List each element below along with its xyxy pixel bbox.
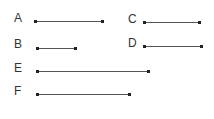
endpoint-icon: [36, 93, 39, 96]
endpoint-icon: [101, 20, 104, 23]
line-segment-a: [35, 21, 103, 22]
endpoint-icon: [147, 70, 150, 73]
endpoint-icon: [36, 47, 39, 50]
segment-label-a: A: [14, 12, 22, 24]
endpoint-icon: [36, 70, 39, 73]
line-segment-b: [37, 48, 76, 49]
line-segment-c: [144, 22, 200, 23]
endpoint-icon: [198, 21, 201, 24]
segment-label-f: F: [14, 85, 21, 97]
endpoint-icon: [34, 20, 37, 23]
endpoint-icon: [143, 21, 146, 24]
segment-label-d: D: [128, 37, 137, 49]
segment-label-c: C: [128, 13, 137, 25]
endpoint-icon: [128, 93, 131, 96]
endpoint-icon: [74, 47, 77, 50]
segment-label-b: B: [14, 38, 22, 50]
segment-label-e: E: [14, 62, 22, 74]
line-segment-e: [37, 71, 149, 72]
endpoint-icon: [200, 45, 203, 48]
line-segment-f: [37, 94, 130, 95]
endpoint-icon: [143, 45, 146, 48]
line-segment-d: [144, 46, 202, 47]
